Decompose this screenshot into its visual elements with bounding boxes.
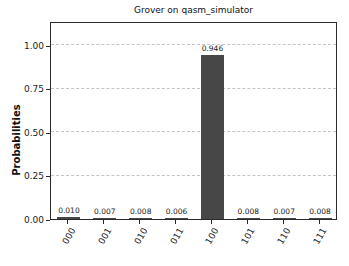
y-tick-label: 0.25	[0, 171, 44, 182]
x-tick-mark	[139, 220, 140, 224]
x-tick-mark	[283, 220, 284, 224]
bar-value-label: 0.946	[192, 44, 232, 53]
y-tick-label: 1.00	[0, 41, 44, 52]
x-tick-label: 000	[56, 226, 78, 254]
y-tick-label: 0.00	[0, 215, 44, 226]
x-tick-label: 100	[199, 226, 221, 254]
y-tick-mark	[46, 220, 50, 221]
gridline	[51, 131, 336, 132]
y-tick-mark	[46, 133, 50, 134]
chart-title: Grover on qasm_simulator	[50, 5, 337, 15]
bar	[93, 218, 116, 219]
x-tick-mark	[211, 220, 212, 224]
bar	[309, 218, 332, 219]
bar	[237, 218, 260, 219]
bar	[201, 55, 224, 219]
y-tick-label: 0.50	[0, 128, 44, 139]
bar	[57, 217, 80, 219]
bar-value-label: 0.006	[157, 207, 197, 216]
bar-value-label: 0.010	[49, 206, 89, 215]
gridline	[51, 88, 336, 89]
gridline	[51, 175, 336, 176]
x-tick-label: 001	[92, 226, 114, 254]
x-tick-mark	[175, 220, 176, 224]
x-tick-mark	[319, 220, 320, 224]
x-tick-label: 111	[307, 226, 329, 254]
x-tick-mark	[67, 220, 68, 224]
bar-value-label: 0.008	[228, 207, 268, 216]
bar-value-label: 0.008	[121, 207, 161, 216]
x-tick-mark	[247, 220, 248, 224]
x-tick-mark	[103, 220, 104, 224]
x-tick-label: 010	[128, 226, 150, 254]
y-axis-label: Probabilities	[11, 104, 22, 175]
bar-value-label: 0.007	[85, 207, 125, 216]
bar-value-label: 0.008	[300, 207, 340, 216]
y-tick-label: 0.75	[0, 84, 44, 95]
x-tick-label: 011	[164, 226, 186, 254]
x-tick-label: 110	[271, 226, 293, 254]
bar-value-label: 0.007	[264, 207, 304, 216]
y-tick-mark	[46, 46, 50, 47]
y-tick-mark	[46, 176, 50, 177]
y-tick-mark	[46, 89, 50, 90]
x-tick-label: 101	[235, 226, 257, 254]
bar	[273, 218, 296, 219]
bar	[165, 218, 188, 219]
figure: Grover on qasm_simulator Probabilities 0…	[0, 0, 349, 266]
plot-area: 0.0100.0070.0080.0060.9460.0080.0070.008	[50, 22, 337, 220]
bar	[129, 218, 152, 219]
